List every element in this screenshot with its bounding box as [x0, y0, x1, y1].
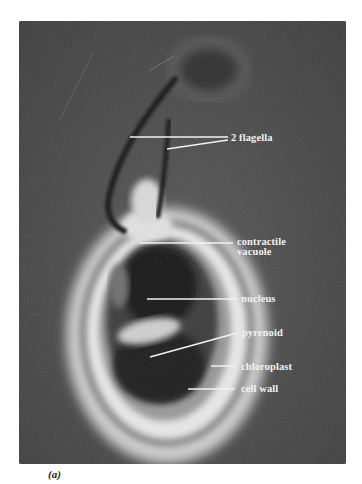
label-pyrenoid: pyrenoid — [242, 328, 283, 338]
label-cell-wall: cell wall — [241, 384, 278, 394]
figure-caption: (a) — [48, 468, 61, 480]
micrograph-photo — [19, 21, 346, 464]
label-flagella: 2 flagella — [231, 133, 273, 143]
label-contractile-vacuole-line2: vacuole — [237, 247, 272, 257]
label-chloroplast: chloroplast — [241, 362, 292, 372]
micrograph-figure: 2 flagella contractile vacuole nucleus p… — [0, 0, 362, 484]
label-nucleus: nucleus — [241, 294, 276, 304]
cell-illustration — [19, 21, 346, 464]
